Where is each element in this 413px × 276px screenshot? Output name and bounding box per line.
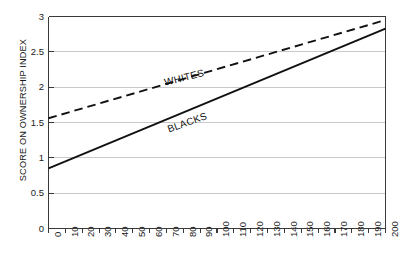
ownership-index-line-chart: SCORE ON OWNERSHIP INDEX 00.511.522.53 0… xyxy=(0,0,413,276)
plot-area xyxy=(0,0,413,276)
series-line-blacks xyxy=(49,29,386,169)
series-line-whites xyxy=(49,20,386,118)
